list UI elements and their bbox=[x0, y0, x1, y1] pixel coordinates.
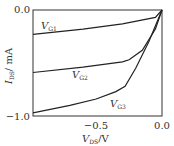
label-vg3: VG3 bbox=[110, 98, 126, 110]
ylabel-sub: DS bbox=[8, 71, 15, 80]
x-axis-label: VDS/V bbox=[82, 133, 110, 145]
ylabel-unit: / mA bbox=[3, 47, 14, 71]
ytick-0: 0.0 bbox=[14, 4, 30, 15]
xlabel-unit: /V bbox=[98, 133, 109, 144]
vg1-sub: G1 bbox=[48, 25, 57, 32]
label-vg1: VG1 bbox=[41, 20, 57, 32]
xtick-0: 0.0 bbox=[154, 120, 170, 131]
label-vg2: VG2 bbox=[72, 69, 88, 81]
xlabel-sub: DS bbox=[89, 138, 98, 145]
y-axis-label: IDS/ mA bbox=[3, 47, 15, 85]
vg2-sub: G2 bbox=[79, 74, 88, 81]
xtick-neg05: −0.5 bbox=[84, 120, 108, 131]
iv-chart: 0.0 −1.0 −0.5 0.0 VDS/V IDS/ mA VG1 VG2 … bbox=[0, 0, 174, 146]
vg3-sub: G3 bbox=[117, 103, 126, 110]
ytick-neg1: −1.0 bbox=[6, 111, 30, 122]
